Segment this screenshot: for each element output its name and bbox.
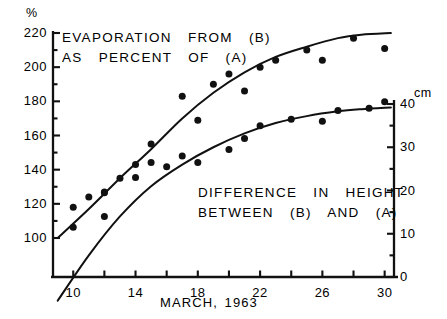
data-point: [148, 141, 155, 148]
data-point: [85, 194, 92, 201]
data-point: [257, 122, 264, 129]
data-point: [225, 71, 232, 78]
x-tick-label-18: 18: [178, 285, 218, 300]
right-tick-label-10: 10: [400, 226, 415, 241]
data-point: [225, 146, 232, 153]
left-tick-label-120: 120: [0, 196, 47, 211]
data-point: [116, 175, 123, 182]
lower-series-annotation-line1: DIFFERENCE IN HEIGHT: [198, 185, 404, 200]
data-point: [288, 116, 295, 123]
data-point: [101, 189, 108, 196]
data-point: [148, 159, 155, 166]
right-tick-label-40: 40: [400, 96, 415, 111]
chart-canvas: [0, 0, 447, 319]
data-point: [179, 152, 186, 159]
x-tick-label-26: 26: [302, 285, 342, 300]
x-tick-label-22: 22: [240, 285, 280, 300]
left-tick-label-180: 180: [0, 93, 47, 108]
left-tick-label-100: 100: [0, 230, 47, 245]
data-point: [241, 135, 248, 142]
data-point: [272, 57, 279, 64]
x-tick-label-30: 30: [365, 285, 405, 300]
data-point: [303, 47, 310, 54]
left-tick-label-200: 200: [0, 59, 47, 74]
x-tick-label-14: 14: [116, 285, 156, 300]
data-point: [241, 88, 248, 95]
data-point: [381, 98, 388, 105]
data-point: [132, 174, 139, 181]
data-point: [257, 64, 264, 71]
data-point: [334, 107, 341, 114]
data-point: [132, 161, 139, 168]
left-tick-label-220: 220: [0, 25, 47, 40]
lower-series-annotation-line2: BETWEEN (B) AND (A): [198, 205, 398, 220]
data-point: [319, 57, 326, 64]
data-point: [163, 163, 170, 170]
data-point: [350, 35, 357, 42]
data-point: [101, 213, 108, 220]
right-axis-unit-label: cm: [414, 86, 432, 100]
upper-series-annotation-line2: AS PERCENT OF (A): [62, 50, 248, 65]
left-tick-label-140: 140: [0, 162, 47, 177]
data-point: [194, 159, 201, 166]
right-tick-label-30: 30: [400, 139, 415, 154]
data-point: [381, 45, 388, 52]
data-point: [70, 204, 77, 211]
right-tick-label-20: 20: [400, 183, 415, 198]
data-point: [194, 117, 201, 124]
data-point: [210, 81, 217, 88]
left-tick-label-160: 160: [0, 128, 47, 143]
data-point: [70, 224, 77, 231]
data-point: [366, 105, 373, 112]
left-axis-unit-label: %: [26, 6, 38, 20]
data-point: [319, 118, 326, 125]
upper-series-annotation-line1: EVAPORATION FROM (B): [62, 30, 271, 45]
data-point: [179, 93, 186, 100]
x-tick-label-10: 10: [53, 285, 93, 300]
figure-chart: % cm MARCH, 1963 EVAPORATION FROM (B) AS…: [0, 0, 447, 319]
right-tick-label-0: 0: [400, 269, 408, 284]
